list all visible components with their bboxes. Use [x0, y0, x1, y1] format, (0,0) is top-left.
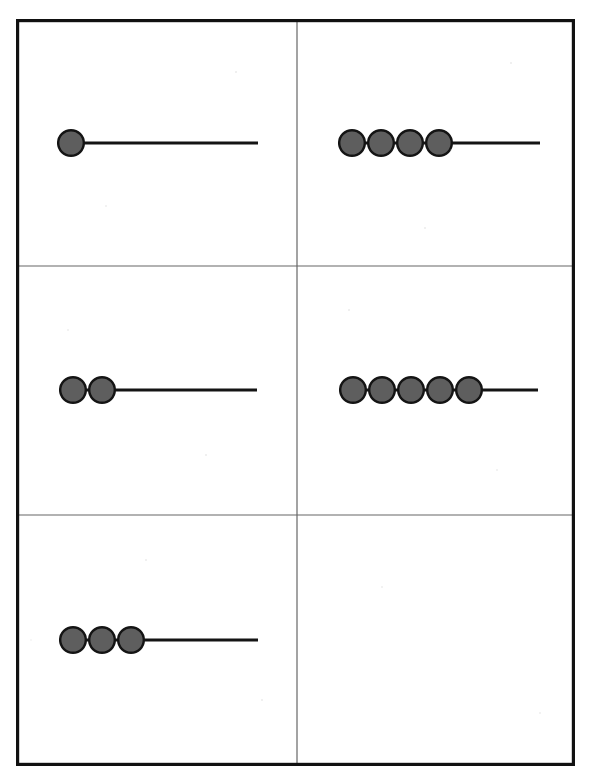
- tadpole-circle: [340, 377, 366, 403]
- figure-root: [0, 0, 591, 781]
- tadpole-circle: [60, 377, 86, 403]
- tadpole-circle: [398, 377, 424, 403]
- grid-frame: [16, 19, 575, 766]
- tadpole-grid-svg: [16, 19, 575, 766]
- tadpole-circle: [339, 130, 365, 156]
- tadpole-circle: [426, 130, 452, 156]
- tadpole-circle: [369, 377, 395, 403]
- tadpole-circle: [89, 627, 115, 653]
- panel-background-bottom-right: [297, 515, 574, 765]
- tadpole-circle: [456, 377, 482, 403]
- tadpole-circle: [427, 377, 453, 403]
- tadpole-circle: [118, 627, 144, 653]
- tadpole-circle: [368, 130, 394, 156]
- tadpole-circle: [397, 130, 423, 156]
- tadpole-circle: [89, 377, 115, 403]
- tadpole-circle: [60, 627, 86, 653]
- tadpole-circle: [58, 130, 84, 156]
